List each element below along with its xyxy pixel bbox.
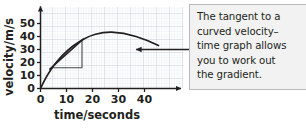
callout-box: The tangent to a curved velocity– time g…: [189, 4, 306, 90]
y-tick-30: 30: [20, 43, 36, 56]
x-tick-40: 40: [137, 93, 153, 106]
x-tick-30: 30: [111, 93, 127, 106]
figure-container: 0 10 20 30 40 50 0 10 20 30 40 time/seco…: [0, 0, 306, 128]
x-tick-10: 10: [59, 93, 75, 106]
x-tick-20: 20: [85, 93, 101, 106]
y-tick-0: 0: [27, 82, 35, 95]
y-axis-label: velocity/m/s: [2, 18, 16, 96]
callout-text: The tangent to a curved velocity– time g…: [197, 10, 304, 83]
x-tick-0: 0: [37, 93, 45, 106]
x-axis-label: time/seconds: [54, 108, 140, 122]
y-tick-40: 40: [20, 30, 36, 43]
y-tick-50: 50: [20, 17, 36, 30]
y-tick-10: 10: [20, 69, 36, 82]
y-tick-20: 20: [20, 56, 36, 69]
callout-arrow: [132, 40, 192, 60]
